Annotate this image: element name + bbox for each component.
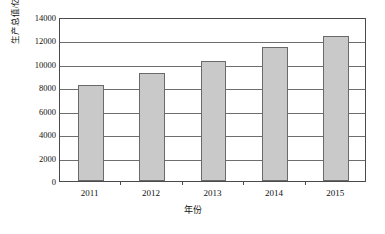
y-axis-tick-label: 14000 bbox=[35, 14, 56, 23]
bar bbox=[262, 47, 288, 181]
y-axis-tick-label: 4000 bbox=[39, 131, 56, 140]
bar bbox=[139, 73, 165, 181]
x-axis-tick-label: 2014 bbox=[265, 187, 283, 199]
x-axis-tick-label: 2013 bbox=[204, 187, 222, 199]
y-axis-tick-label: 2000 bbox=[39, 154, 56, 163]
y-axis-tick-label: 12000 bbox=[35, 37, 56, 46]
y-axis-tick-label: 6000 bbox=[39, 107, 56, 116]
bar bbox=[201, 61, 227, 181]
y-axis-tick-labels: 02000400060008000100001200014000 bbox=[22, 14, 56, 182]
y-axis-title: 生产总值/亿元 bbox=[8, 0, 22, 64]
bars-group bbox=[60, 19, 365, 181]
y-axis-tick-label: 8000 bbox=[39, 84, 56, 93]
x-axis-tick-label: 2012 bbox=[142, 187, 160, 199]
bar bbox=[78, 85, 104, 181]
bar-chart: 生产总值/亿元 02000400060008000100001200014000… bbox=[0, 0, 385, 234]
x-axis-ticks bbox=[59, 182, 366, 186]
x-axis-tick bbox=[305, 182, 306, 185]
x-axis-tick-labels: 20112012201320142015 bbox=[59, 187, 366, 201]
plot-area bbox=[59, 18, 366, 182]
bar bbox=[323, 36, 349, 181]
x-axis-tick bbox=[243, 182, 244, 185]
x-axis-tick bbox=[120, 182, 121, 185]
x-axis-tick bbox=[182, 182, 183, 185]
x-axis-tick-label: 2015 bbox=[326, 187, 344, 199]
y-axis-tick-label: 10000 bbox=[35, 60, 56, 69]
x-axis-tick-label: 2011 bbox=[81, 187, 99, 199]
y-axis-tick-label: 0 bbox=[52, 178, 56, 187]
x-axis-title: 年份 bbox=[0, 204, 385, 216]
